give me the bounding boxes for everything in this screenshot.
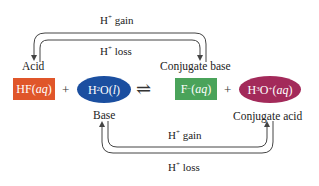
conjugate-acid-species-h3o: H3O+(aq) bbox=[239, 76, 301, 103]
base-label: Base bbox=[93, 110, 115, 122]
top-loss-label: H+ loss bbox=[100, 45, 132, 57]
conjugate-base-species-f: F−(aq) bbox=[175, 78, 217, 100]
base-species-h2o: H2O(l) bbox=[77, 76, 131, 103]
acid-species-hf: HF(aq) bbox=[13, 78, 55, 100]
acid-label: Acid bbox=[22, 61, 44, 73]
conjugate-base-label: Conjugate base bbox=[160, 61, 231, 73]
plus-sign-2: + bbox=[224, 83, 231, 96]
equilibrium-arrow-icon: ⇌ bbox=[136, 80, 151, 98]
top-gain-label: H+ gain bbox=[100, 14, 134, 26]
plus-sign-1: + bbox=[62, 83, 69, 96]
bottom-loss-label: H+ loss bbox=[168, 161, 200, 173]
conjugate-acid-label: Conjugate acid bbox=[233, 111, 302, 123]
bottom-gain-label: H+ gain bbox=[168, 129, 202, 141]
